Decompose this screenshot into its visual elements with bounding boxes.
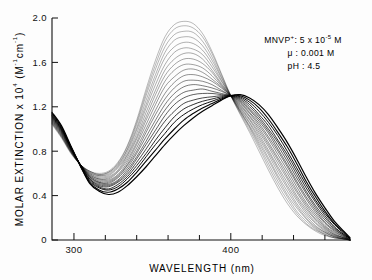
- spectrum-16: [52, 95, 350, 238]
- y-tick-label: 0.8: [33, 146, 47, 157]
- y-tick-label: 1.6: [33, 57, 47, 68]
- x-tick-label: 300: [65, 244, 82, 255]
- y-tick-label: 0.4: [33, 190, 47, 201]
- spectrum-17: [52, 96, 350, 239]
- x-axis-title: WAVELENGTH (nm): [52, 258, 352, 276]
- y-axis-title-units-cm: cm: [14, 43, 25, 58]
- spectrum-09: [52, 64, 350, 240]
- y-axis-title-units-exp1: -1: [12, 58, 18, 65]
- y-axis-title-units-open: (M: [14, 65, 25, 82]
- annotation-line-concentration: MNVP+: 5 x 10-5 M: [248, 34, 358, 45]
- y-tick-label: 0: [41, 234, 47, 245]
- y-tick-label: 1.2: [33, 101, 47, 112]
- annotation-conc-unit: M: [331, 35, 341, 45]
- y-tick-label: 2.0: [33, 12, 47, 23]
- y-axis-title-exponent: 4: [12, 83, 18, 87]
- spectrum-18: [52, 96, 350, 239]
- spectrum-figure: 00.40.81.21.62.0300400 MNVP+: 5 x 10-5 M…: [0, 0, 372, 280]
- spectrum-19: [52, 95, 350, 239]
- spectrum-12: [52, 80, 350, 240]
- x-tick-label: 400: [222, 244, 239, 255]
- annotation-compound: MNVP: [264, 35, 290, 45]
- y-axis-title-units-close: ): [14, 32, 25, 36]
- y-axis-title-main: MOLAR EXTINCTION x 10: [14, 87, 25, 226]
- annotation-conc-value: : 5 x 10: [294, 35, 325, 45]
- conditions-annotation: MNVP+: 5 x 10-5 M μ : 0.001 M pH : 4.5: [248, 34, 358, 71]
- x-axis-title-text: WAVELENGTH (nm): [149, 263, 255, 274]
- annotation-line-ph: pH : 4.5: [248, 61, 358, 71]
- y-axis-title-units-exp2: -1: [12, 36, 18, 43]
- annotation-line-ionic-strength: μ : 0.001 M: [248, 48, 358, 58]
- spectrum-11: [52, 75, 350, 240]
- spectrum-20: [52, 94, 350, 237]
- y-axis-title: MOLAR EXTINCTION x 104 (M-1cm-1): [9, 19, 27, 239]
